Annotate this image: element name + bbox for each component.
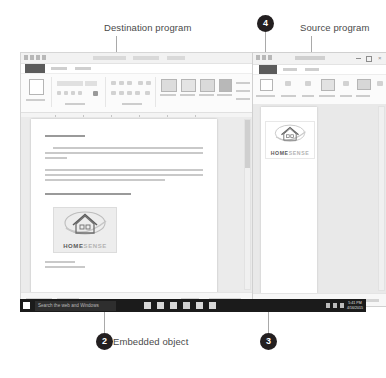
leader-line-destination-program [116,36,117,52]
numbering-button[interactable] [119,81,124,85]
align-center-button[interactable] [119,91,124,95]
pictures-label [160,94,176,96]
replace-button[interactable] [236,90,250,92]
marker-3: 3 [260,333,277,350]
document-page[interactable]: HOMESENSE [31,119,217,292]
italic-button[interactable] [64,91,68,95]
decrease-indent-button[interactable] [138,81,143,85]
paragraph-group-label [122,103,142,105]
bullets-button[interactable] [111,81,116,85]
tab-insert[interactable] [75,67,91,70]
tab-home[interactable] [51,67,67,70]
source-number-format-button[interactable] [305,81,311,86]
destination-ribbon[interactable] [21,74,253,113]
document-paragraph-line [45,179,165,181]
increase-indent-button[interactable] [146,81,151,85]
source-window-title [295,56,325,60]
destination-title-bar[interactable] [21,53,253,64]
network-icon[interactable] [333,303,337,308]
shapes-button[interactable] [181,79,196,92]
document-closing-line [45,193,131,195]
destination-ribbon-tabs[interactable] [21,64,253,74]
windows-start-icon[interactable] [23,302,30,309]
browser-taskbar-icon[interactable] [209,302,216,309]
source-title-bar[interactable]: × [253,53,386,65]
font-size-box[interactable] [85,81,97,86]
pictures-button[interactable] [161,79,177,92]
select-button[interactable] [236,98,250,100]
taskbar-pinned-apps[interactable] [144,302,216,309]
source-tab-file[interactable] [259,65,277,74]
source-tab-insert[interactable] [305,68,319,71]
marker-2-number: 2 [102,337,107,346]
paste-button[interactable] [29,79,44,95]
multilevel-list-button[interactable] [127,81,132,85]
source-program-window[interactable]: × [252,52,386,307]
destination-window-title [93,56,185,60]
source-editing-button[interactable] [357,79,371,90]
undo-icon[interactable] [30,55,34,60]
font-name-box[interactable] [57,81,83,86]
source-logo-text: HOMESENSE [266,150,314,156]
maximize-button[interactable] [366,56,372,62]
customize-qat-chevron-down-icon[interactable] [42,55,46,60]
windows-taskbar[interactable]: Search the web and Windows 5:41 PM 4/16/… [20,299,366,312]
show-hidden-icons-chevron-up-icon[interactable] [326,303,330,308]
source-undo-icon[interactable] [262,55,266,60]
word-taskbar-icon[interactable] [183,302,190,309]
justify-button[interactable] [135,91,140,95]
tab-file[interactable] [25,64,45,73]
source-paste-button[interactable] [260,79,273,91]
source-tab-home[interactable] [283,68,297,71]
destination-program-window[interactable]: HOMESENSE [20,52,254,307]
taskbar-clock[interactable]: 5:41 PM 4/16/2015 [347,301,363,309]
system-tray[interactable]: 5:41 PM 4/16/2015 [326,301,366,309]
source-redo-icon[interactable] [268,55,272,60]
marker-2: 2 [96,333,113,350]
task-view-icon[interactable] [144,302,151,309]
source-quick-access-toolbar[interactable] [256,55,272,60]
source-logo-object[interactable]: HOMESENSE [265,121,315,159]
leader-line-marker-4 [265,32,266,53]
store-icon[interactable] [170,302,177,309]
source-styles-button[interactable] [321,79,335,91]
start-button[interactable] [20,299,33,312]
source-insert-cells-button[interactable] [343,81,349,86]
underline-button[interactable] [71,91,75,95]
line-spacing-button[interactable] [145,91,150,95]
strikethrough-button[interactable] [78,91,82,95]
source-ribbon-tabs[interactable] [253,65,386,75]
save-icon[interactable] [24,55,28,60]
source-merge-button[interactable] [285,81,291,86]
align-right-button[interactable] [127,91,132,95]
source-save-icon[interactable] [256,55,260,60]
source-page[interactable]: HOMESENSE [261,107,317,293]
align-left-button[interactable] [111,91,116,95]
find-button[interactable] [236,82,250,84]
file-explorer-icon[interactable] [157,302,164,309]
figure-root: Destination program Source program Embed… [0,0,386,378]
callout-label-embedded-object: Embedded object [113,336,188,347]
destination-document-canvas[interactable]: HOMESENSE [21,117,253,292]
source-vertical-scrollbar[interactable] [378,106,385,291]
scrollbar-thumb[interactable] [245,120,250,168]
document-paragraph-line [45,152,203,154]
volume-icon[interactable] [340,303,344,308]
clock-time: 5:41 PM [347,301,363,305]
bold-button[interactable] [57,91,61,95]
object-button[interactable] [219,79,232,92]
destination-vertical-scrollbar[interactable] [244,119,251,290]
close-icon[interactable]: × [378,56,383,61]
source-sort-filter-button[interactable] [377,81,383,86]
excel-taskbar-icon[interactable] [196,302,203,309]
minimize-button[interactable] [356,56,361,61]
redo-icon[interactable] [36,55,40,60]
quick-access-toolbar[interactable] [24,55,46,60]
source-document-canvas[interactable]: HOMESENSE [253,104,386,293]
embedded-object[interactable]: HOMESENSE [53,207,117,253]
taskbar-search-input[interactable]: Search the web and Windows [35,301,116,311]
font-color-button[interactable] [93,91,98,96]
source-styles-label [319,95,335,97]
smartart-button[interactable] [200,79,215,92]
source-ribbon[interactable] [253,75,386,106]
